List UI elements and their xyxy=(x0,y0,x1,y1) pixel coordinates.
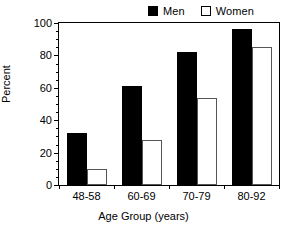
x-tick-label: 60-69 xyxy=(127,191,155,202)
x-tick xyxy=(224,185,225,189)
x-tick xyxy=(279,185,280,189)
x-tick xyxy=(169,185,170,189)
y-tick-minor xyxy=(56,112,59,113)
y-tick-minor xyxy=(56,64,59,65)
x-tick-label: 70-79 xyxy=(182,191,210,202)
bars-container xyxy=(59,23,279,185)
plot-area: 020406080100 48-5860-6970-7980-92 xyxy=(58,22,280,186)
y-tick-minor xyxy=(56,128,59,129)
y-tick-minor xyxy=(56,47,59,48)
x-axis-title: Age Group (years) xyxy=(0,211,287,222)
chart-legend: Men Women xyxy=(148,4,254,18)
y-tick-minor xyxy=(56,161,59,162)
y-tick-minor xyxy=(56,31,59,32)
bar-group xyxy=(224,23,279,185)
y-tick-label: 0 xyxy=(46,180,52,191)
y-tick-major xyxy=(54,23,59,24)
y-tick-label: 60 xyxy=(40,82,52,93)
legend-swatch-men-icon xyxy=(148,6,158,16)
bar-group xyxy=(59,23,114,185)
x-tick xyxy=(114,185,115,189)
y-tick-minor xyxy=(56,96,59,97)
y-tick-major xyxy=(54,55,59,56)
y-tick-minor xyxy=(56,104,59,105)
y-tick-label: 100 xyxy=(34,18,52,29)
x-tick xyxy=(59,185,60,189)
y-tick-major xyxy=(54,153,59,154)
legend-label-women: Women xyxy=(216,6,254,17)
y-tick-label: 20 xyxy=(40,147,52,158)
y-tick-minor xyxy=(56,145,59,146)
y-tick-major xyxy=(54,88,59,89)
y-tick-minor xyxy=(56,39,59,40)
y-axis-title: Percent xyxy=(1,89,12,103)
bar-group xyxy=(169,23,224,185)
y-tick-label: 80 xyxy=(40,50,52,61)
bar-chart-figure: Men Women Percent 020406080100 48-5860-6… xyxy=(0,0,287,233)
legend-entry-women: Women xyxy=(201,4,254,18)
y-tick-minor xyxy=(56,177,59,178)
y-tick-label: 40 xyxy=(40,115,52,126)
bar-men-60-69 xyxy=(122,86,142,185)
y-tick-minor xyxy=(56,72,59,73)
bar-women-60-69 xyxy=(142,140,162,185)
y-tick-minor xyxy=(56,136,59,137)
bar-men-80-92 xyxy=(232,29,252,185)
y-tick-minor xyxy=(56,169,59,170)
bar-group xyxy=(114,23,169,185)
bar-women-80-92 xyxy=(252,47,272,185)
legend-swatch-women-icon xyxy=(201,6,211,16)
legend-label-men: Men xyxy=(163,6,185,17)
bar-women-48-58 xyxy=(87,169,107,185)
y-tick-major xyxy=(54,120,59,121)
bar-women-70-79 xyxy=(197,98,217,185)
y-tick-minor xyxy=(56,80,59,81)
legend-entry-men: Men xyxy=(148,4,185,18)
bar-men-70-79 xyxy=(177,52,197,185)
x-tick-label: 80-92 xyxy=(237,191,265,202)
bar-men-48-58 xyxy=(67,133,87,185)
x-tick-label: 48-58 xyxy=(72,191,100,202)
